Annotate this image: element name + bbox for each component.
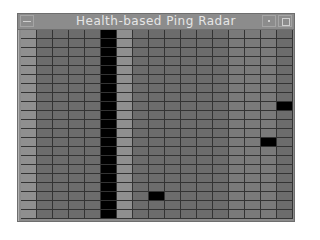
host-cell[interactable] bbox=[213, 129, 229, 138]
host-cell[interactable] bbox=[85, 84, 101, 93]
host-cell[interactable] bbox=[21, 30, 37, 39]
host-cell[interactable] bbox=[117, 210, 133, 219]
host-cell[interactable] bbox=[165, 30, 181, 39]
host-cell[interactable] bbox=[53, 174, 69, 183]
host-cell[interactable] bbox=[85, 174, 101, 183]
host-cell[interactable] bbox=[21, 210, 37, 219]
host-cell[interactable] bbox=[117, 165, 133, 174]
host-cell[interactable] bbox=[37, 201, 53, 210]
host-cell[interactable] bbox=[277, 174, 293, 183]
host-cell[interactable] bbox=[261, 138, 277, 147]
host-cell[interactable] bbox=[181, 39, 197, 48]
host-cell[interactable] bbox=[101, 93, 117, 102]
host-cell[interactable] bbox=[165, 138, 181, 147]
host-cell[interactable] bbox=[149, 201, 165, 210]
host-cell[interactable] bbox=[101, 66, 117, 75]
host-cell[interactable] bbox=[53, 192, 69, 201]
host-cell[interactable] bbox=[197, 39, 213, 48]
host-cell[interactable] bbox=[133, 102, 149, 111]
host-cell[interactable] bbox=[213, 84, 229, 93]
host-cell[interactable] bbox=[197, 93, 213, 102]
host-cell[interactable] bbox=[69, 57, 85, 66]
host-cell[interactable] bbox=[277, 201, 293, 210]
host-cell[interactable] bbox=[277, 75, 293, 84]
host-cell[interactable] bbox=[133, 66, 149, 75]
host-cell[interactable] bbox=[229, 192, 245, 201]
host-cell[interactable] bbox=[85, 48, 101, 57]
host-cell[interactable] bbox=[229, 75, 245, 84]
host-cell[interactable] bbox=[229, 57, 245, 66]
host-cell[interactable] bbox=[117, 30, 133, 39]
host-cell[interactable] bbox=[69, 147, 85, 156]
host-cell[interactable] bbox=[197, 201, 213, 210]
host-cell[interactable] bbox=[165, 201, 181, 210]
host-cell[interactable] bbox=[261, 111, 277, 120]
host-cell[interactable] bbox=[277, 129, 293, 138]
host-cell[interactable] bbox=[261, 75, 277, 84]
host-cell[interactable] bbox=[245, 102, 261, 111]
host-cell[interactable] bbox=[181, 30, 197, 39]
host-cell[interactable] bbox=[21, 174, 37, 183]
host-cell[interactable] bbox=[245, 192, 261, 201]
host-cell[interactable] bbox=[53, 138, 69, 147]
host-cell[interactable] bbox=[229, 165, 245, 174]
host-cell[interactable] bbox=[117, 174, 133, 183]
host-cell[interactable] bbox=[261, 147, 277, 156]
host-cell[interactable] bbox=[21, 129, 37, 138]
host-cell[interactable] bbox=[85, 201, 101, 210]
host-cell[interactable] bbox=[149, 129, 165, 138]
host-cell[interactable] bbox=[37, 102, 53, 111]
host-cell[interactable] bbox=[165, 192, 181, 201]
host-cell[interactable] bbox=[21, 165, 37, 174]
host-cell[interactable] bbox=[117, 129, 133, 138]
host-cell[interactable] bbox=[149, 30, 165, 39]
host-cell[interactable] bbox=[37, 129, 53, 138]
host-cell[interactable] bbox=[117, 93, 133, 102]
host-cell[interactable] bbox=[181, 102, 197, 111]
host-cell[interactable] bbox=[101, 84, 117, 93]
host-cell[interactable] bbox=[149, 120, 165, 129]
host-cell[interactable] bbox=[181, 120, 197, 129]
host-cell[interactable] bbox=[85, 39, 101, 48]
host-cell[interactable] bbox=[181, 75, 197, 84]
host-cell[interactable] bbox=[117, 66, 133, 75]
host-cell[interactable] bbox=[101, 174, 117, 183]
host-cell[interactable] bbox=[277, 183, 293, 192]
host-cell[interactable] bbox=[37, 138, 53, 147]
host-cell[interactable] bbox=[133, 129, 149, 138]
host-cell[interactable] bbox=[229, 84, 245, 93]
host-cell[interactable] bbox=[261, 93, 277, 102]
host-cell[interactable] bbox=[213, 75, 229, 84]
host-cell[interactable] bbox=[69, 66, 85, 75]
host-cell[interactable] bbox=[133, 30, 149, 39]
host-cell[interactable] bbox=[261, 102, 277, 111]
host-cell[interactable] bbox=[181, 129, 197, 138]
host-cell[interactable] bbox=[21, 57, 37, 66]
host-cell[interactable] bbox=[37, 48, 53, 57]
host-cell[interactable] bbox=[69, 192, 85, 201]
host-cell[interactable] bbox=[213, 174, 229, 183]
host-cell[interactable] bbox=[245, 66, 261, 75]
host-cell[interactable] bbox=[149, 165, 165, 174]
host-cell[interactable] bbox=[85, 210, 101, 219]
host-cell[interactable] bbox=[37, 39, 53, 48]
host-cell[interactable] bbox=[245, 57, 261, 66]
host-cell[interactable] bbox=[229, 120, 245, 129]
host-cell[interactable] bbox=[197, 84, 213, 93]
host-cell[interactable] bbox=[69, 102, 85, 111]
host-cell[interactable] bbox=[53, 156, 69, 165]
host-cell[interactable] bbox=[149, 210, 165, 219]
host-cell[interactable] bbox=[277, 57, 293, 66]
host-cell[interactable] bbox=[117, 147, 133, 156]
host-cell[interactable] bbox=[117, 39, 133, 48]
host-cell[interactable] bbox=[133, 156, 149, 165]
host-cell[interactable] bbox=[165, 129, 181, 138]
host-cell[interactable] bbox=[69, 210, 85, 219]
host-cell[interactable] bbox=[37, 210, 53, 219]
host-cell[interactable] bbox=[21, 138, 37, 147]
host-cell[interactable] bbox=[149, 111, 165, 120]
host-cell[interactable] bbox=[133, 39, 149, 48]
host-cell[interactable] bbox=[133, 174, 149, 183]
host-cell[interactable] bbox=[213, 30, 229, 39]
host-cell[interactable] bbox=[37, 147, 53, 156]
